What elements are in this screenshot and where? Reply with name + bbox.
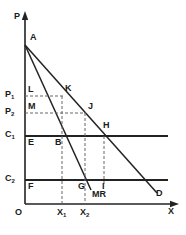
point-k-label: K <box>65 84 72 93</box>
price-p1-sub: 1 <box>11 94 14 100</box>
cost-c1-label: C1 <box>5 130 15 139</box>
price-p1-label: P1 <box>5 90 14 99</box>
price-p2-sub: 2 <box>11 111 14 117</box>
point-j-label: J <box>88 102 93 111</box>
marginal-revenue-label: MR <box>92 190 106 199</box>
cost-c1-base: C <box>5 129 12 139</box>
point-h-label: H <box>103 121 110 130</box>
demand-curve <box>25 45 157 193</box>
point-g-label: G <box>78 182 85 191</box>
p-axis-label: P <box>14 12 20 21</box>
marginal-revenue-curve <box>25 45 91 190</box>
point-b-label: B <box>55 138 62 147</box>
demand-label: D <box>156 189 163 198</box>
cost-c2-label: C2 <box>5 174 15 183</box>
price-p2-label: P2 <box>5 107 14 116</box>
quantity-x1-sub: 1 <box>63 212 66 218</box>
point-m-label: M <box>28 102 36 111</box>
cost-c2-sub: 2 <box>12 178 15 184</box>
quantity-x2-label: X2 <box>80 208 89 217</box>
diagram-canvas <box>0 0 186 235</box>
point-a-label: A <box>30 33 37 42</box>
x-axis <box>25 201 179 207</box>
point-f-label: F <box>28 182 34 191</box>
point-e-label: E <box>28 138 34 147</box>
cost-c1-sub: 1 <box>12 134 15 140</box>
quantity-x1-label: X1 <box>57 208 66 217</box>
quantity-x2-sub: 2 <box>86 212 89 218</box>
economics-diagram: P X O A P1 L K P2 M J C1 E B H C2 F G I … <box>0 0 186 235</box>
origin-label: O <box>15 208 22 217</box>
point-l-label: L <box>28 85 34 94</box>
x-axis-label: X <box>168 207 174 216</box>
cost-c2-base: C <box>5 173 12 183</box>
